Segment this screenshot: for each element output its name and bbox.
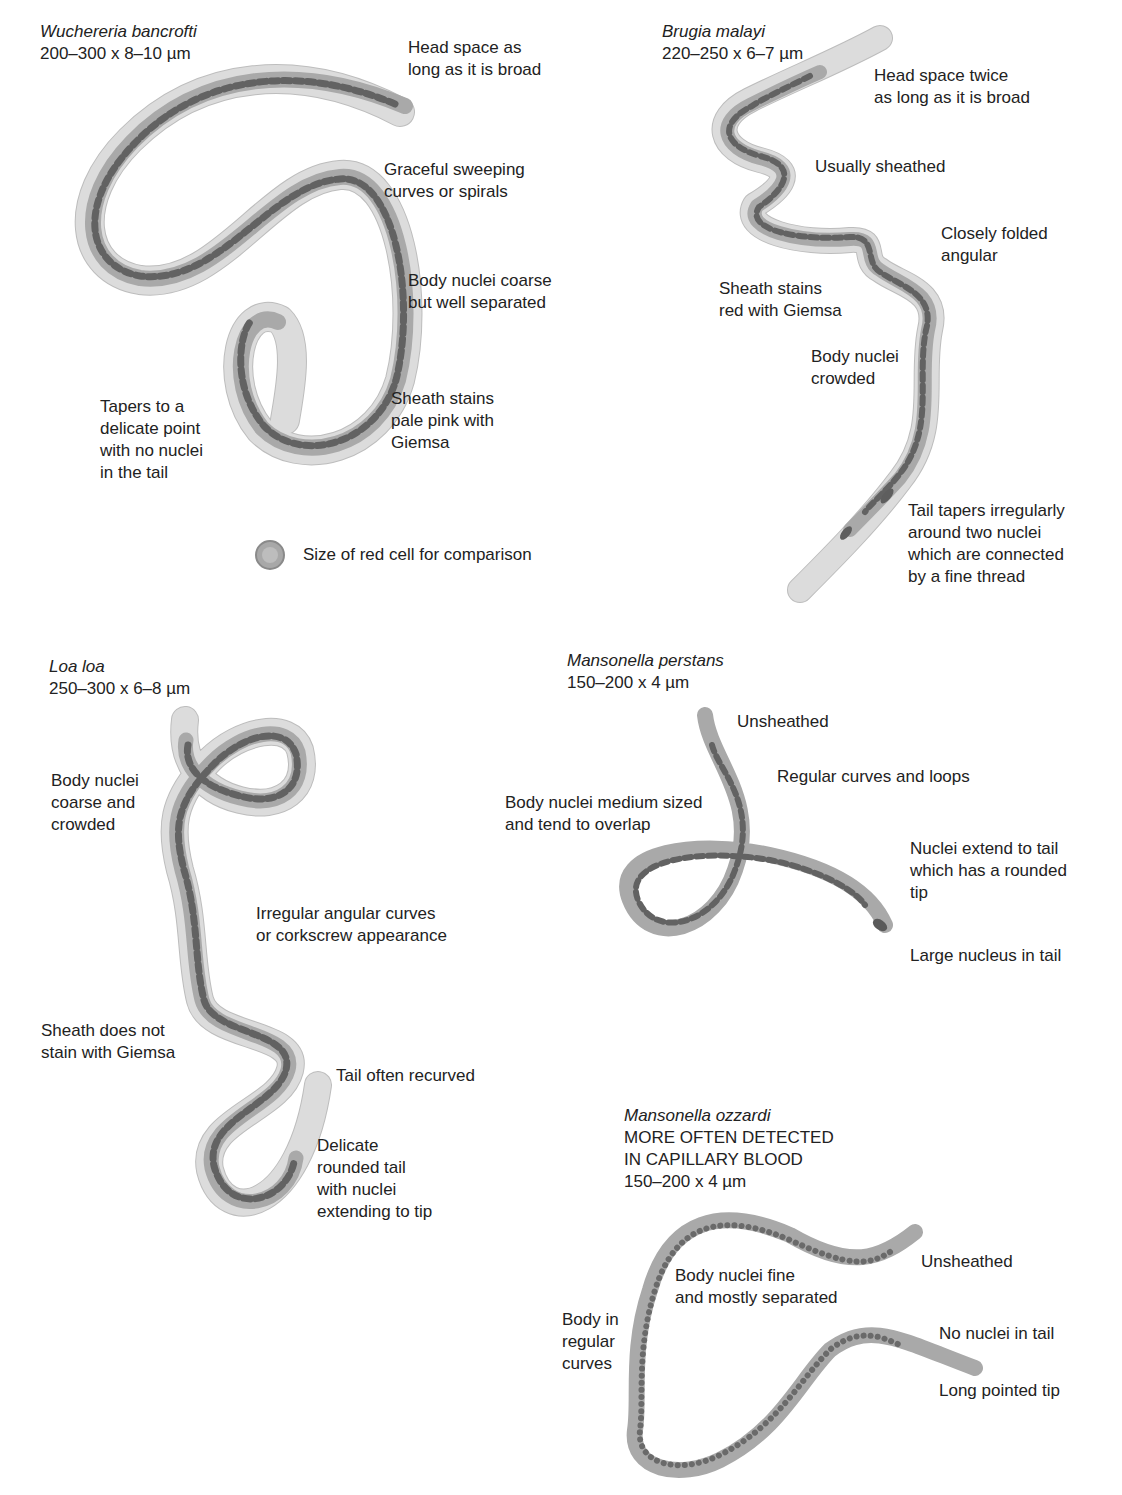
annotation: Tail tapers irregularly around two nucle… [908, 500, 1065, 588]
species-size: 200–300 x 8–10 µm [40, 43, 191, 65]
annotation: Usually sheathed [815, 156, 945, 178]
annotation: Body nuclei coarse but well separated [408, 270, 552, 314]
annotation: Unsheathed [737, 711, 829, 733]
red-cell-legend: Size of red cell for comparison [303, 544, 532, 566]
species-size: 250–300 x 6–8 µm [49, 678, 190, 700]
annotation: Tail often recurved [336, 1065, 475, 1087]
species-name: Mansonella ozzardi [624, 1105, 770, 1127]
annotation: Body nuclei medium sized and tend to ove… [505, 792, 702, 836]
annotation: Graceful sweeping curves or spirals [384, 159, 525, 203]
annotation: Body nuclei fine and mostly separated [675, 1265, 838, 1309]
species-name: Wuchereria bancrofti [40, 21, 197, 43]
species-name: Mansonella perstans [567, 650, 724, 672]
annotation: Body nuclei crowded [811, 346, 899, 390]
annotation: Nuclei extend to tail which has a rounde… [910, 838, 1067, 904]
annotation: Unsheathed [921, 1251, 1013, 1273]
species-note: MORE OFTEN DETECTED IN CAPILLARY BLOOD [624, 1127, 834, 1171]
annotation: Sheath does not stain with Giemsa [41, 1020, 175, 1064]
species-name: Brugia malayi [662, 21, 765, 43]
annotation: Closely folded angular [941, 223, 1048, 267]
species-size: 150–200 x 4 µm [567, 672, 689, 694]
annotation: No nuclei in tail [939, 1323, 1054, 1345]
annotation: Regular curves and loops [777, 766, 970, 788]
annotation: Sheath stains red with Giemsa [719, 278, 842, 322]
species-size: 220–250 x 6–7 µm [662, 43, 803, 65]
annotation: Long pointed tip [939, 1380, 1060, 1402]
species-size: 150–200 x 4 µm [624, 1171, 746, 1193]
loa-loa-worm [174, 720, 318, 1203]
annotation: Head space as long as it is broad [408, 37, 541, 81]
annotation: Irregular angular curves or corkscrew ap… [256, 903, 447, 947]
annotation: Large nucleus in tail [910, 945, 1061, 967]
annotation: Sheath stains pale pink with Giemsa [391, 388, 494, 454]
annotation: Head space twice as long as it is broad [874, 65, 1030, 109]
annotation: Delicate rounded tail with nuclei extend… [317, 1135, 432, 1223]
species-name: Loa loa [49, 656, 105, 678]
annotation: Body nuclei coarse and crowded [51, 770, 139, 836]
wuchereria-bancrofti-worm [90, 79, 408, 569]
annotation: Tapers to a delicate point with no nucle… [100, 396, 203, 484]
annotation: Body in regular curves [562, 1309, 619, 1375]
